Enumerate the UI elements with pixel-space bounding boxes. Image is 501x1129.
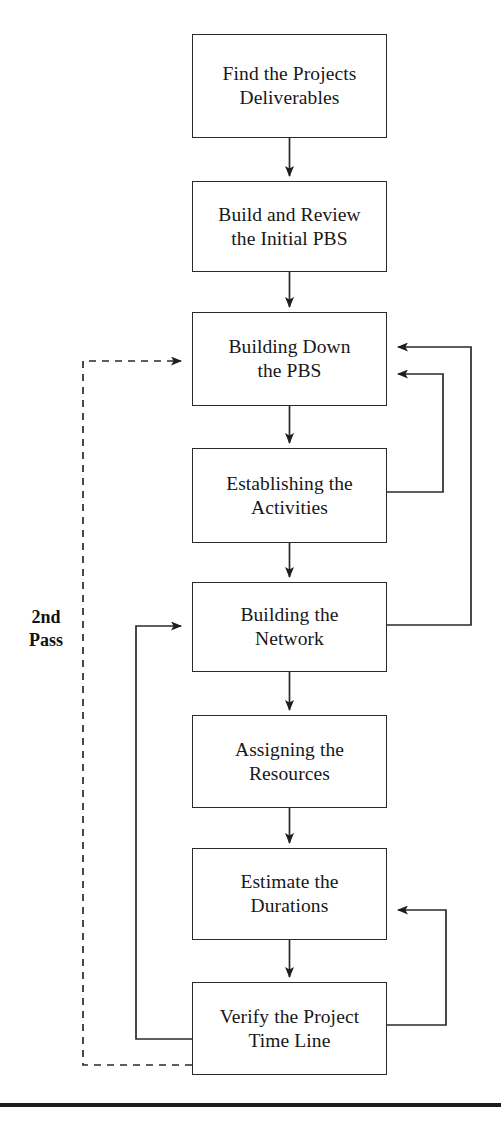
node-label: Establishing the Activities [220, 472, 359, 520]
node-label: Building the Network [234, 603, 344, 651]
node-label: Verify the Project Time Line [214, 1005, 365, 1053]
node-build-network[interactable]: Building the Network [192, 582, 387, 672]
node-building-down-pbs[interactable]: Building Down the PBS [192, 312, 387, 406]
flowchart-figure: Find the Projects Deliverables Build and… [0, 0, 501, 1129]
edge-verify-to-network-loop [136, 626, 192, 1039]
node-assign-resources[interactable]: Assigning the Resources [192, 715, 387, 808]
node-estimate-durations[interactable]: Estimate the Durations [192, 848, 387, 940]
connector-layer [0, 0, 501, 1129]
edge-activities-to-down-loop [387, 374, 443, 492]
node-find-deliverables[interactable]: Find the Projects Deliverables [192, 34, 387, 138]
node-establish-activities[interactable]: Establishing the Activities [192, 448, 387, 543]
edge-network-to-down-loop [387, 347, 471, 625]
node-label: Assigning the Resources [229, 738, 350, 786]
bottom-divider [0, 1103, 501, 1107]
node-build-review-pbs[interactable]: Build and Review the Initial PBS [192, 181, 387, 272]
node-label: Find the Projects Deliverables [217, 62, 363, 110]
node-label: Estimate the Durations [234, 870, 344, 918]
edge-second-pass-dashed [83, 361, 192, 1065]
node-label: Building Down the PBS [222, 335, 356, 383]
node-verify-time-line[interactable]: Verify the Project Time Line [192, 982, 387, 1075]
node-label: Build and Review the Initial PBS [212, 203, 366, 251]
edge-verify-to-estimate-loop [387, 910, 446, 1025]
second-pass-label: 2nd Pass [16, 606, 76, 651]
